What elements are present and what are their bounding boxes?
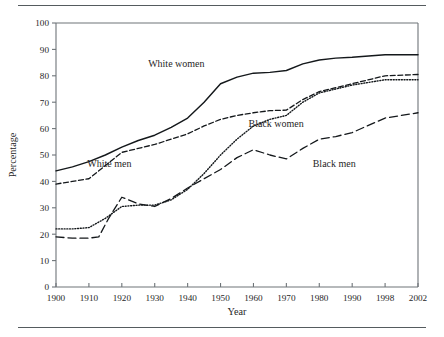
x-axis-title: Year bbox=[228, 306, 247, 317]
x-axis-ticks: 1900191019201930194019501960197019801990… bbox=[47, 283, 428, 303]
series-labels-group: White womenWhite menBlack womenBlack men bbox=[87, 58, 355, 169]
y-tick-label: 70 bbox=[40, 98, 50, 108]
series-label-white-women: White women bbox=[148, 58, 204, 69]
figure-bottom-rule bbox=[18, 327, 426, 328]
y-axis-ticks: 0102030405060708090100 bbox=[35, 18, 56, 292]
series-label-black-men: Black men bbox=[313, 158, 356, 169]
y-tick-label: 90 bbox=[40, 45, 50, 55]
series-label-black-women: Black women bbox=[249, 118, 304, 129]
x-tick-label: 1900 bbox=[47, 293, 66, 303]
x-tick-label: 1950 bbox=[211, 293, 230, 303]
y-tick-label: 40 bbox=[40, 177, 50, 187]
y-tick-label: 30 bbox=[40, 203, 50, 213]
series-line-black-men bbox=[56, 113, 418, 238]
x-tick-label: 1960 bbox=[244, 293, 263, 303]
y-tick-label: 20 bbox=[40, 230, 50, 240]
x-tick-label: 1910 bbox=[80, 293, 99, 303]
series-line-black-women bbox=[56, 80, 418, 229]
x-tick-label: 1970 bbox=[277, 293, 296, 303]
y-tick-label: 10 bbox=[40, 256, 50, 266]
figure-container: 0102030405060708090100 19001910192019301… bbox=[0, 0, 444, 337]
y-tick-label: 80 bbox=[40, 71, 50, 81]
y-tick-label: 0 bbox=[44, 282, 49, 292]
x-tick-label: 1990 bbox=[343, 293, 362, 303]
axis-lines bbox=[56, 23, 418, 287]
x-tick-label: 1940 bbox=[178, 293, 197, 303]
x-tick-label: 1920 bbox=[113, 293, 132, 303]
data-series-group bbox=[56, 55, 418, 238]
series-label-white-men: White men bbox=[87, 158, 131, 169]
x-tick-label: 1930 bbox=[146, 293, 165, 303]
y-tick-label: 60 bbox=[40, 124, 50, 134]
figure-top-rule bbox=[18, 5, 426, 6]
x-tick-label: 2002 bbox=[409, 293, 428, 303]
x-tick-label: 1998 bbox=[376, 293, 395, 303]
y-axis-title: Percentage bbox=[7, 132, 18, 177]
series-line-white-women bbox=[56, 55, 418, 171]
x-tick-label: 1980 bbox=[310, 293, 329, 303]
y-tick-label: 100 bbox=[35, 18, 49, 28]
y-tick-label: 50 bbox=[40, 150, 50, 160]
line-chart: 0102030405060708090100 19001910192019301… bbox=[0, 10, 444, 322]
